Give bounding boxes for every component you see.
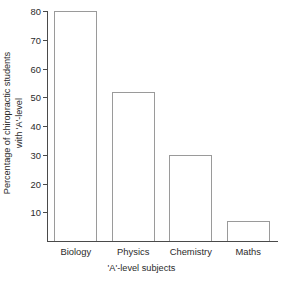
y-tick-label: 20 — [31, 178, 41, 189]
y-tick-label: 70 — [31, 34, 41, 45]
y-tick-mark — [43, 69, 47, 70]
bar-biology — [54, 11, 97, 241]
y-tick-mark — [43, 212, 47, 213]
y-axis-title-line-2: with 'A'-level — [13, 51, 25, 193]
y-tick-label: 60 — [31, 63, 41, 74]
x-label-physics: Physics — [117, 246, 149, 257]
x-label-maths: Maths — [235, 246, 261, 257]
x-axis-title: 'A'-level subjects — [0, 263, 283, 273]
y-tick-label: 40 — [31, 121, 41, 132]
y-tick-mark — [43, 126, 47, 127]
y-tick-mark — [43, 184, 47, 185]
y-tick-mark — [43, 11, 47, 12]
y-axis-line — [47, 11, 48, 242]
bar-chemistry — [169, 155, 212, 241]
y-axis-title: Percentage of chiropractic students with… — [0, 0, 26, 245]
x-label-biology: Biology — [60, 246, 91, 257]
bar-maths — [227, 221, 270, 241]
plot-area: 1020304050607080 — [47, 11, 277, 241]
y-tick-mark — [43, 155, 47, 156]
y-tick-label: 30 — [31, 149, 41, 160]
y-tick-label: 50 — [31, 92, 41, 103]
bar-physics — [112, 92, 155, 242]
y-tick-mark — [43, 97, 47, 98]
y-axis-title-line-1: Percentage of chiropractic students — [2, 51, 14, 193]
x-axis-line — [47, 241, 278, 242]
y-tick-label: 10 — [31, 207, 41, 218]
x-label-chemistry: Chemistry — [170, 246, 212, 257]
y-tick-mark — [43, 40, 47, 41]
bar-chart: Percentage of chiropractic students with… — [0, 0, 283, 285]
y-tick-label: 80 — [31, 6, 41, 17]
